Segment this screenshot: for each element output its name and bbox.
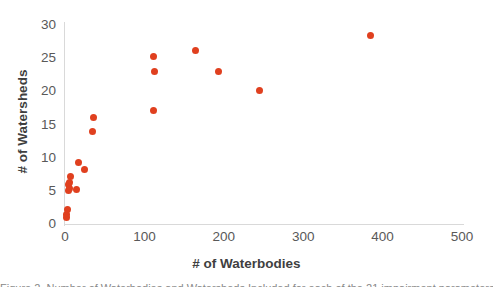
data-point [66,179,73,186]
data-point [75,159,82,166]
x-tick-label: 0 [45,230,85,244]
x-tick-label: 500 [442,230,482,244]
data-point [90,114,97,121]
data-point [151,68,158,75]
y-axis-title: # of Watersheds [15,32,30,212]
x-tick-label: 400 [363,230,403,244]
x-tick-label: 200 [204,230,244,244]
data-point [215,68,222,75]
x-axis-line [64,224,464,225]
data-point [73,186,80,193]
figure-caption: Figure 2. Number of Waterbodies and Wate… [0,277,493,287]
data-point [89,128,96,135]
y-tick-label: 5 [30,184,56,198]
y-tick-label: 15 [30,118,56,132]
x-axis-tick-labels: 0100200300400500 [65,230,462,248]
y-axis-tick-labels: 051015202530 [26,25,56,224]
y-tick-label: 10 [30,151,56,165]
data-point [256,87,263,94]
data-point [64,206,71,213]
data-point [150,53,157,60]
x-tick-label: 100 [124,230,164,244]
y-tick-label: 0 [30,217,56,231]
data-point [63,214,70,221]
x-tick-label: 300 [283,230,323,244]
data-point [150,107,157,114]
data-point [67,173,74,180]
data-point [192,47,199,54]
y-tick-label: 25 [30,51,56,65]
data-point [81,166,88,173]
scatter-chart-figure: 051015202530 0100200300400500 # of Water… [0,0,493,287]
y-tick-label: 30 [30,18,56,32]
plot-area [65,25,462,224]
data-point [367,32,374,39]
y-tick-label: 20 [30,84,56,98]
x-axis-title: # of Waterbodies [0,256,493,271]
